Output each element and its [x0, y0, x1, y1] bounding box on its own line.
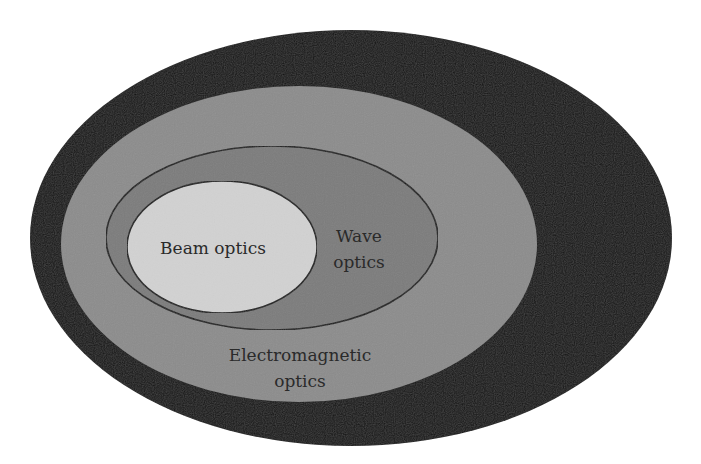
electromagnetic-optics-label-line1: Electromagnetic [229, 345, 372, 365]
wave-optics-label-line1: Wave [336, 226, 382, 246]
wave-optics-label-line2: optics [333, 252, 385, 272]
optics-nested-diagram: Beam optics Wave optics Electromagnetic … [0, 0, 701, 464]
electromagnetic-optics-label-line2: optics [274, 371, 326, 391]
beam-optics-label: Beam optics [160, 238, 266, 258]
